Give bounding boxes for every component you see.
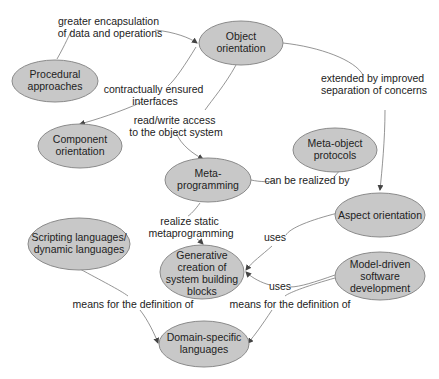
node-domain-specific-languages: Domain-specificlanguages (159, 321, 249, 367)
node-generative-creation: Generativecreation ofsystem buildingbloc… (160, 245, 244, 299)
edge-label-encapsulation: greater encapsulation of data and operat… (58, 15, 163, 39)
edge-label-means-mdsd: means for the definition of (230, 298, 351, 310)
node-aspect-orientation: Aspect orientation (335, 193, 425, 237)
svg-text:Aspect orientation: Aspect orientation (338, 209, 422, 221)
svg-text:Scripting languages/dynamic la: Scripting languages/dynamic languages (31, 231, 126, 255)
edge-model-driven-to-dsl (248, 278, 335, 343)
edge-label-extended-by: extended by improved separation of conce… (321, 72, 427, 96)
node-metaprogramming: Meta-programming (165, 158, 251, 202)
edge-label-uses-mdsd: uses (269, 280, 291, 292)
node-object-orientation: Objectorientation (199, 21, 283, 65)
node-component-orientation: Componentorientation (38, 124, 122, 168)
node-procedural-approaches: Proceduralapproaches (12, 60, 98, 102)
edge-aspect-to-generative (246, 213, 338, 270)
svg-text:Componentorientation: Componentorientation (53, 133, 107, 157)
edge-label-uses-aspect: uses (264, 231, 286, 243)
edge-label-contractually-ensured: contractually ensured interfaces (104, 83, 207, 107)
svg-text:Meta-objectprotocols: Meta-objectprotocols (308, 137, 363, 161)
edge-label-realize-static: realize static metaprogramming (148, 215, 233, 239)
node-model-driven-development: Model-drivensoftwaredevelopment (335, 252, 425, 300)
edge-label-means-scripting: means for the definition of (73, 298, 194, 310)
svg-text:Proceduralapproaches: Proceduralapproaches (28, 68, 83, 92)
edge-label-can-be-realized: can be realized by (264, 174, 350, 186)
edge-label-read-write-access: read/write access to the object system (129, 114, 223, 138)
node-scripting-languages: Scripting languages/dynamic languages (28, 218, 130, 270)
node-meta-object-protocols: Meta-objectprotocols (293, 128, 377, 172)
concept-map-canvas: greater encapsulation of data and operat… (0, 0, 439, 379)
edge-object-orientation-to-metaprogramming (176, 65, 236, 159)
